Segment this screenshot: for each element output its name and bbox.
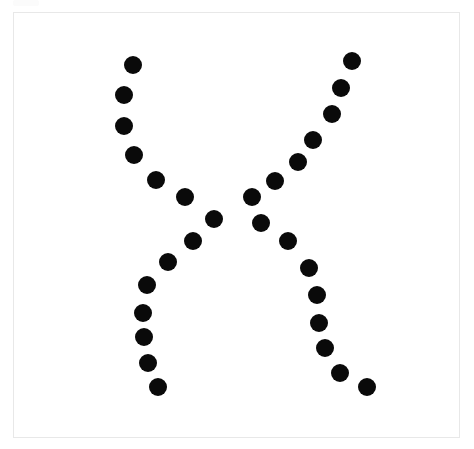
figure-dot [300, 259, 318, 277]
dotted-x-figure [0, 0, 474, 449]
figure-dot [308, 286, 326, 304]
figure-dot [316, 339, 334, 357]
lower-right-arm [0, 0, 474, 449]
image-canvas [0, 0, 474, 449]
figure-dot [331, 364, 349, 382]
figure-dot [310, 314, 328, 332]
figure-dot [358, 378, 376, 396]
